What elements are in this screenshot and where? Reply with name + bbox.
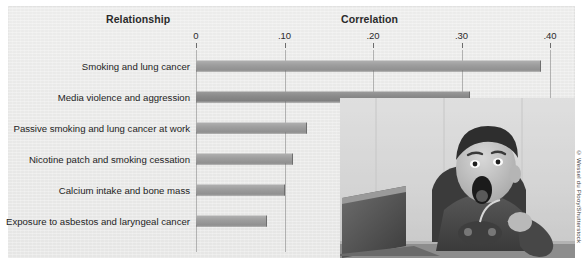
photo-boy-at-computer <box>340 98 575 258</box>
x-tick-mark <box>462 43 463 48</box>
bar-label: Exposure to asbestos and laryngeal cance… <box>6 215 190 226</box>
x-tick-mark <box>196 43 197 48</box>
bar-row: Smoking and lung cancer <box>0 50 583 81</box>
figure-root: Relationship Correlation 0.10.20.30.40 S… <box>0 0 583 268</box>
bar-label: Calcium intake and bone mass <box>59 184 190 195</box>
column-header-correlation: Correlation <box>341 13 398 25</box>
bar <box>196 60 541 71</box>
bar-label: Smoking and lung cancer <box>82 60 190 71</box>
x-tick-mark <box>373 43 374 48</box>
bar-label: Media violence and aggression <box>58 91 190 102</box>
image-credit: © Wessel du Plooy/Shutterstock <box>576 150 582 243</box>
x-tick-label: .20 <box>366 30 379 41</box>
x-tick-mark <box>285 43 286 48</box>
x-tick-label: .30 <box>455 30 468 41</box>
column-header-relationship: Relationship <box>106 13 170 25</box>
bar <box>196 153 293 164</box>
bar <box>196 184 285 195</box>
bar-label: Nicotine patch and smoking cessation <box>29 153 190 164</box>
x-tick-label: 0 <box>193 30 198 41</box>
x-tick-label: .40 <box>543 30 556 41</box>
bar <box>196 122 307 133</box>
bar-label: Passive smoking and lung cancer at work <box>13 122 190 133</box>
bar <box>196 215 267 226</box>
x-tick-label: .10 <box>278 30 291 41</box>
x-tick-mark <box>550 43 551 48</box>
